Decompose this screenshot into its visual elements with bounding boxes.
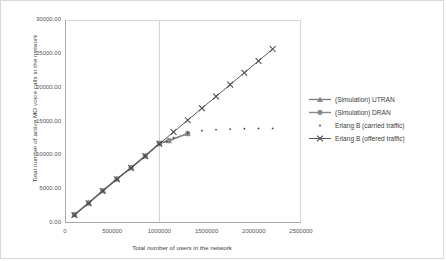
y-tick-label: 5000.00 xyxy=(17,185,61,191)
marker-dot xyxy=(187,132,189,134)
chart-svg xyxy=(65,20,301,223)
marker-x xyxy=(227,82,233,88)
x-tick-label: 2500000 xyxy=(271,228,331,234)
y-tick-label: 10000.00 xyxy=(17,151,61,157)
marker-dot xyxy=(201,130,203,132)
marker-circle xyxy=(166,138,171,143)
series-dot xyxy=(73,127,273,216)
marker-dot xyxy=(272,127,274,129)
series-x xyxy=(72,46,276,218)
y-tick-label: 20000.00 xyxy=(17,84,61,90)
legend-item[interactable]: (Simulation) DRAN xyxy=(307,106,443,119)
marker-x xyxy=(241,70,247,76)
marker-dot xyxy=(258,128,260,130)
series-line xyxy=(74,134,187,215)
legend-label: Erlang B (offered traffic) xyxy=(333,135,405,142)
legend-label: (Simulation) DRAN xyxy=(333,109,391,116)
chart-legend: (Simulation) UTRAN(Simulation) DRANErlan… xyxy=(307,93,443,145)
y-axis-title: Total number of active MO voice calls in… xyxy=(31,14,38,204)
x-axis-title: Total number of users in the network xyxy=(63,244,301,251)
marker-x xyxy=(270,46,276,52)
marker-x xyxy=(185,117,191,123)
legend-item[interactable]: Erlang B (offered traffic) xyxy=(307,132,443,145)
marker-dot xyxy=(243,128,245,130)
y-tick-label: 15000.00 xyxy=(17,118,61,124)
y-tick-label: 25000.00 xyxy=(17,50,61,56)
marker-circle xyxy=(318,110,323,115)
marker-x xyxy=(256,58,262,64)
legend-marker-circle-icon xyxy=(307,106,333,119)
marker-x xyxy=(213,94,219,100)
legend-item[interactable]: Erlang B (carried traffic) xyxy=(307,119,443,132)
marker-x xyxy=(171,129,177,135)
legend-item[interactable]: (Simulation) UTRAN xyxy=(307,93,443,106)
legend-marker-x-icon xyxy=(307,132,333,145)
marker-dot xyxy=(173,137,175,139)
marker-dot xyxy=(215,129,217,131)
series-line xyxy=(74,133,187,214)
marker-x xyxy=(199,105,205,111)
plot-area xyxy=(65,20,301,223)
legend-marker-dot-icon xyxy=(307,119,333,132)
plot-canvas xyxy=(65,20,301,223)
chart-figure: Total number of active MO voice calls in… xyxy=(0,0,444,259)
legend-label: Erlang B (carried traffic) xyxy=(333,122,405,129)
y-tick-label: 0.00 xyxy=(17,219,61,225)
y-tick-label: 30000.00 xyxy=(17,16,61,22)
legend-label: (Simulation) UTRAN xyxy=(333,96,395,103)
marker-dot xyxy=(166,141,168,143)
marker-dot xyxy=(319,125,321,127)
marker-dot xyxy=(229,128,231,130)
legend-marker-triangle-icon xyxy=(307,93,333,106)
